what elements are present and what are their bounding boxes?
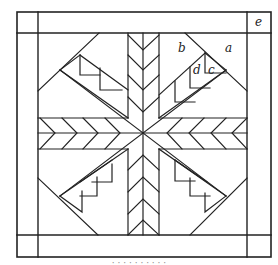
label-d: d (193, 64, 201, 76)
label-a: a (225, 42, 232, 54)
label-e: e (255, 16, 262, 28)
caption: · · · · · · · · · · (0, 258, 278, 265)
quilt-block-diagram (0, 0, 278, 265)
label-c: c (208, 64, 215, 76)
label-b: b (178, 42, 186, 54)
